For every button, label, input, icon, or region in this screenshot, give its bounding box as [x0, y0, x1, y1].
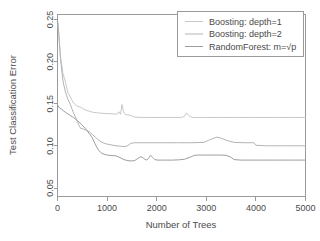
x-axis-ticks [58, 197, 306, 201]
y-axis-title: Test Classification Error [7, 55, 18, 155]
x-tick-label: 2000 [147, 203, 167, 213]
y-axis-tick-labels: 0.050.100.150.200.25 [45, 11, 55, 197]
x-tick-label: 3000 [196, 203, 216, 213]
chart-legend: Boosting: depth=1Boosting: depth=2Random… [178, 12, 304, 57]
y-tick-label: 0.20 [45, 53, 55, 71]
chart-figure: 010002000300040005000 0.050.100.150.200.… [0, 0, 320, 241]
x-axis-title: Number of Trees [146, 219, 217, 230]
x-tick-label: 5000 [295, 203, 315, 213]
legend-label: Boosting: depth=2 [209, 29, 282, 39]
legend-label: Boosting: depth=1 [209, 17, 282, 27]
x-tick-label: 4000 [246, 203, 266, 213]
legend-label: RandomForest: m=√p [209, 42, 296, 52]
line-chart-svg: 010002000300040005000 0.050.100.150.200.… [0, 0, 320, 241]
y-tick-label: 0.25 [45, 11, 55, 29]
x-axis-tick-labels: 010002000300040005000 [55, 203, 316, 213]
x-tick-label: 1000 [97, 203, 117, 213]
series-line [58, 106, 306, 161]
x-tick-label: 0 [55, 203, 60, 213]
y-tick-label: 0.10 [45, 137, 55, 155]
y-tick-label: 0.05 [45, 179, 55, 197]
y-tick-label: 0.15 [45, 95, 55, 113]
